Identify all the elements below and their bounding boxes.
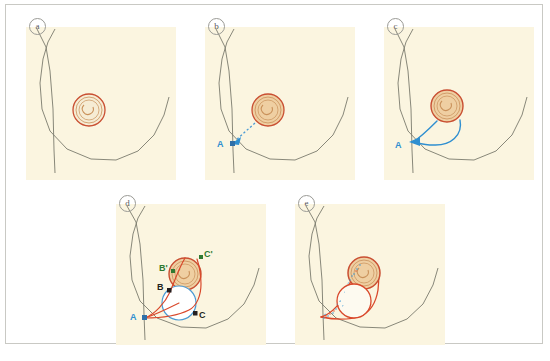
point-label-B: B	[157, 282, 164, 292]
panel-b-canvas	[198, 13, 361, 180]
point-B-marker	[167, 288, 172, 293]
point-Bprime-marker	[171, 269, 175, 273]
panel-c-canvas	[377, 13, 540, 180]
panel-e: e	[288, 190, 451, 345]
areola-outer-ring	[73, 94, 105, 126]
point-Cprime-marker	[199, 255, 203, 259]
panel-label-a: a	[29, 18, 46, 35]
nipple-areola-complex	[73, 94, 105, 126]
point-label-C-prime: C'	[204, 249, 213, 259]
nipple-areola-complex	[169, 258, 201, 290]
figure-root: a b A	[0, 0, 550, 361]
point-label-A: A	[217, 139, 224, 149]
areola-outer-ring	[431, 90, 463, 122]
point-C-marker	[193, 311, 198, 316]
lesion-circle	[337, 284, 371, 318]
panel-label-d: d	[119, 195, 136, 212]
panel-b: b A	[198, 13, 361, 180]
panel-label-b: b	[208, 18, 225, 35]
nipple-areola-complex	[431, 90, 463, 122]
panel-label-e: e	[298, 195, 315, 212]
point-label-A: A	[395, 140, 402, 150]
panel-e-canvas	[288, 190, 451, 345]
panel-label-c: c	[387, 18, 404, 35]
panel-a-canvas	[19, 13, 182, 180]
figure-frame: a b A	[5, 4, 543, 344]
point-label-C: C	[199, 310, 206, 320]
areola-outer-ring	[169, 258, 201, 290]
point-label-A: A	[130, 312, 137, 322]
panel-d: d A B C B' C'	[109, 190, 272, 345]
point-A-marker	[142, 315, 147, 320]
panel-c: c A	[377, 13, 540, 180]
areola-outer-ring	[252, 94, 284, 126]
point-label-B-prime: B'	[159, 263, 168, 273]
panel-a: a	[19, 13, 182, 180]
point-A-marker	[230, 141, 235, 146]
nipple-areola-complex	[252, 94, 284, 126]
